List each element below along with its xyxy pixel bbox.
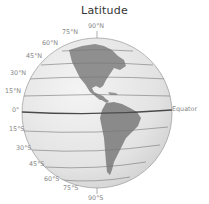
label-75s: 75°S	[63, 184, 78, 192]
label-30s: 30°S	[16, 144, 31, 152]
label-15n: 15°N	[5, 87, 21, 95]
label-60s: 60°S	[44, 175, 59, 183]
label-90n: 90°N	[88, 22, 104, 30]
label-equator: Equator	[172, 105, 197, 113]
globe-diagram: 90°N 75°N 60°N 45°N 30°N 15°N 0° 15°S 30…	[0, 0, 209, 204]
label-45n: 45°N	[26, 52, 42, 60]
label-30n: 30°N	[10, 69, 26, 77]
label-0: 0°	[12, 106, 19, 114]
label-60n: 60°N	[42, 39, 58, 47]
label-90s: 90°S	[88, 194, 103, 202]
label-45s: 45°S	[29, 160, 44, 168]
label-15s: 15°S	[9, 125, 24, 133]
label-75n: 75°N	[62, 28, 78, 36]
